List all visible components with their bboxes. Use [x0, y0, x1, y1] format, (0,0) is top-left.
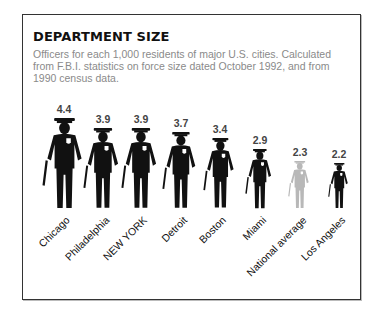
officer-figure-icon	[245, 149, 275, 208]
officer-figure-icon	[83, 128, 123, 208]
chart-subtitle: Officers for each 1,000 residents of maj…	[33, 48, 343, 85]
officer-figure-icon	[162, 132, 200, 208]
value-label: 3.4	[200, 123, 240, 135]
officer-figure-icon	[203, 138, 238, 208]
officer-figure-icon	[288, 161, 312, 208]
value-label: 3.7	[161, 117, 201, 129]
chart-title: DEPARTMENT SIZE	[33, 29, 169, 44]
value-label: 4.4	[44, 103, 84, 115]
value-label: 3.9	[83, 113, 123, 125]
value-label: 2.2	[319, 148, 359, 160]
value-label: 2.3	[280, 146, 320, 158]
value-label: 3.9	[121, 113, 161, 125]
officer-figure-icon	[328, 163, 351, 208]
officer-figure-icon	[42, 118, 87, 208]
value-label: 2.9	[240, 134, 280, 146]
officer-figure-icon	[121, 128, 161, 208]
